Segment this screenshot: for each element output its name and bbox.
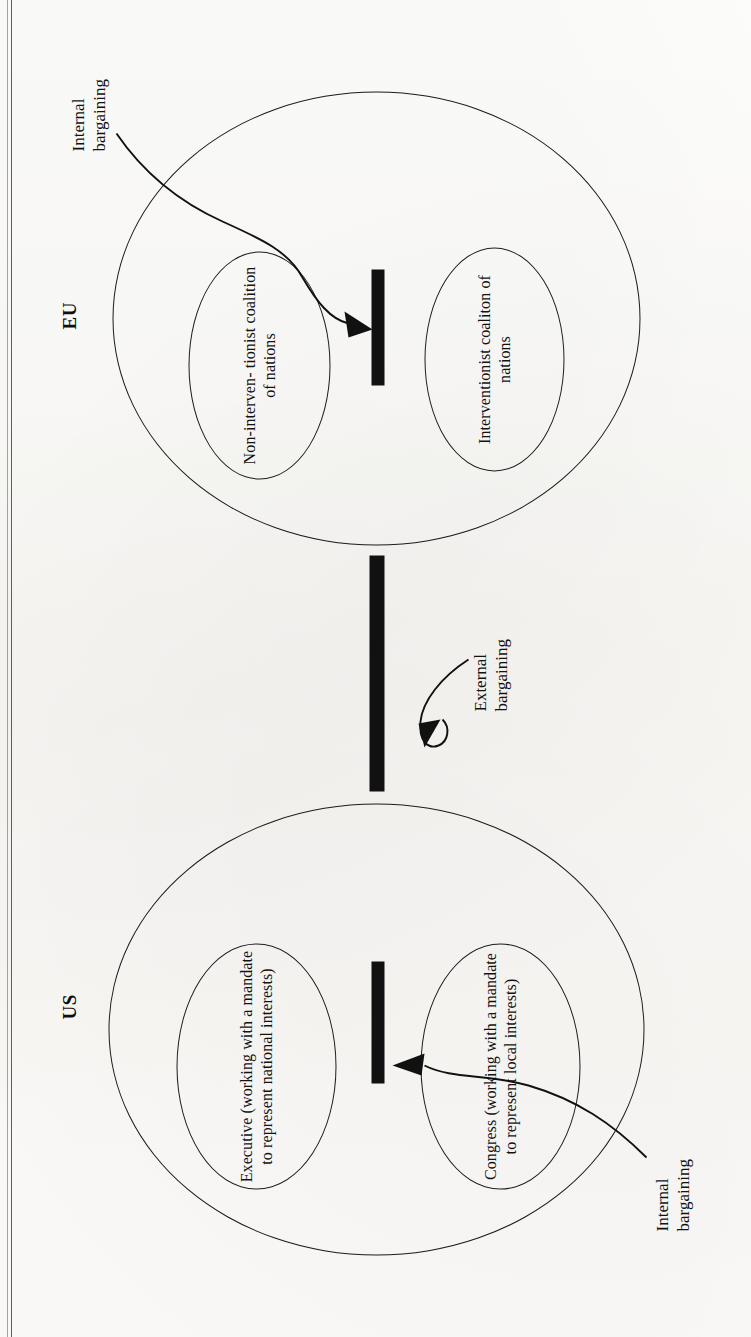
actor-label-eu-interventionist: Interventionist coaliton of nations <box>474 248 514 470</box>
callout-external-bargaining: External bargaining <box>470 639 511 711</box>
connector-bar-external <box>369 555 384 791</box>
callout-internal-bargaining-us: Internal bargaining <box>652 1159 693 1231</box>
group-label-eu: EU <box>58 301 80 329</box>
actor-oval-us-congress: Congress (working with a mandate to repr… <box>420 943 580 1189</box>
group-label-us: US <box>58 994 80 1020</box>
actor-label-us-congress: Congress (working with a mandate to repr… <box>480 944 520 1188</box>
actor-label-us-executive: Executive (working with a mandate to rep… <box>236 944 276 1188</box>
diagram-stage: US Executive (working with a mandate to … <box>0 0 751 1337</box>
actor-oval-eu-interventionist: Interventionist coaliton of nations <box>424 247 564 471</box>
actor-oval-us-executive: Executive (working with a mandate to rep… <box>176 943 336 1189</box>
connector-bar-us-internal <box>371 961 384 1083</box>
actor-oval-eu-non-interventionist: Non-interven- tionist coalition of natio… <box>188 251 330 479</box>
scanned-page: US Executive (working with a mandate to … <box>0 0 751 1337</box>
callout-internal-bargaining-eu: Internal bargaining <box>68 79 109 151</box>
actor-label-eu-non-interventionist: Non-interven- tionist coalition of natio… <box>239 252 279 478</box>
connector-bar-eu-internal <box>371 269 384 385</box>
arrow-external-bargaining <box>418 659 468 747</box>
